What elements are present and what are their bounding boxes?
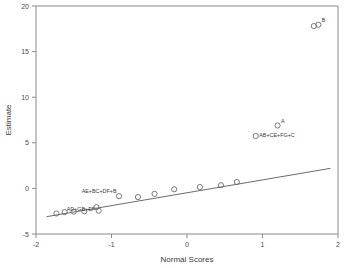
data-point bbox=[152, 191, 157, 196]
data-point bbox=[172, 187, 177, 192]
x-tick-label: -1 bbox=[108, 241, 114, 248]
chart-canvas: -2-1012-505101520Normal ScoresEstimateAD… bbox=[0, 0, 347, 268]
data-point-label: B bbox=[322, 17, 326, 23]
plot-frame bbox=[36, 6, 338, 234]
x-axis-title: Normal Scores bbox=[161, 255, 214, 264]
x-tick-label: 1 bbox=[261, 241, 265, 248]
data-point bbox=[116, 194, 121, 199]
data-point bbox=[197, 184, 202, 189]
y-tick-label: -5 bbox=[23, 231, 29, 238]
y-tick-label: 10 bbox=[21, 94, 29, 101]
normal-probability-plot: -2-1012-505101520Normal ScoresEstimateAD… bbox=[0, 0, 347, 268]
data-point bbox=[275, 123, 280, 128]
y-tick-label: 5 bbox=[25, 139, 29, 146]
data-point-label: AB+CE+FG+C bbox=[259, 132, 295, 138]
y-tick-label: 0 bbox=[25, 185, 29, 192]
y-tick-label: 15 bbox=[21, 48, 29, 55]
data-point-label: A bbox=[281, 118, 285, 124]
x-tick-label: 2 bbox=[336, 241, 340, 248]
data-point-label: AE+BC+DF+B bbox=[82, 188, 117, 194]
x-tick-label: 0 bbox=[185, 241, 189, 248]
y-axis-title: Estimate bbox=[4, 104, 13, 136]
y-tick-label: 20 bbox=[21, 3, 29, 10]
data-point bbox=[135, 194, 140, 199]
x-tick-label: -2 bbox=[33, 241, 39, 248]
data-point bbox=[253, 133, 258, 138]
